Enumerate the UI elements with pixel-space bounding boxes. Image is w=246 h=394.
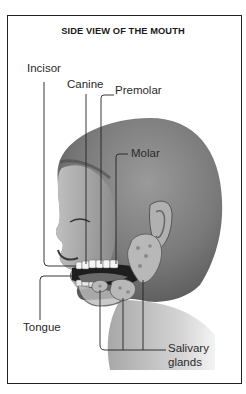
- upper-teeth: [76, 260, 118, 269]
- label-salivary-line1: Salivary: [168, 343, 209, 355]
- label-molar: Molar: [131, 148, 160, 160]
- label-salivary-line2: glands: [168, 357, 202, 369]
- tongue-leader: [40, 276, 72, 320]
- label-tongue: Tongue: [23, 322, 61, 334]
- label-premolar: Premolar: [115, 85, 162, 97]
- diagram-title: SIDE VIEW OF THE MOUTH: [0, 26, 246, 36]
- submandibular-gland: [110, 279, 136, 300]
- label-incisor: Incisor: [27, 63, 61, 75]
- label-canine: Canine: [67, 79, 103, 91]
- head-illustration: [0, 0, 246, 394]
